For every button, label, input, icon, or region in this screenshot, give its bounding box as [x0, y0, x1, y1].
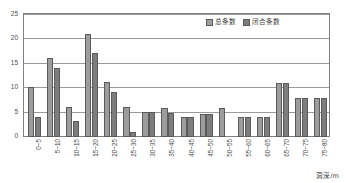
bar-group — [120, 15, 139, 137]
bar-group — [101, 15, 120, 137]
bar — [142, 112, 148, 137]
x-axis-tick: 35~40 — [169, 139, 175, 157]
bar — [149, 112, 155, 137]
plot-area — [23, 13, 330, 137]
bar — [245, 117, 251, 137]
bar — [206, 114, 212, 137]
x-axis-tick: 10~15 — [74, 139, 80, 157]
bar — [73, 121, 79, 137]
y-axis-tick: 20 — [11, 35, 18, 42]
y-axis-tick: 25 — [11, 11, 18, 18]
bar-group — [254, 15, 273, 137]
y-axis-tick: 5 — [14, 108, 18, 115]
bar-group — [178, 15, 197, 137]
y-axis-tick: 0 — [14, 133, 18, 140]
bar — [283, 83, 289, 137]
x-axis-tick: 45~50 — [208, 139, 214, 157]
legend-item[interactable]: 总条数 — [206, 19, 236, 26]
bar-group — [292, 15, 311, 137]
bar — [200, 114, 206, 137]
bar — [111, 92, 117, 137]
x-axis-tick: 50~55 — [227, 139, 233, 157]
bar — [238, 117, 244, 137]
bar — [104, 82, 110, 137]
bar — [219, 108, 225, 137]
bar — [321, 98, 327, 137]
x-axis-tick: 40~45 — [189, 139, 195, 157]
y-axis-tick: 15 — [11, 60, 18, 67]
bar-group — [139, 15, 158, 137]
bar-group — [311, 15, 330, 137]
bar — [314, 98, 320, 137]
bar-group — [44, 15, 63, 137]
bar-group — [216, 15, 235, 137]
bar-group — [25, 15, 44, 137]
x-axis-tick: 65~70 — [284, 139, 290, 157]
bar — [92, 53, 98, 137]
bar — [54, 68, 60, 137]
bar — [66, 107, 72, 137]
bar-series-container — [25, 15, 330, 137]
x-axis-tick: 70~75 — [303, 139, 309, 157]
x-axis-tick: 15~20 — [93, 139, 99, 157]
x-axis-tick: 75~80 — [322, 139, 328, 157]
bar-group — [197, 15, 216, 137]
bar — [187, 117, 193, 137]
bar — [161, 108, 167, 137]
bar — [181, 117, 187, 137]
bar-group — [63, 15, 82, 137]
x-axis-tick: 20~25 — [112, 139, 118, 157]
bar — [302, 98, 308, 137]
bar — [47, 58, 53, 137]
chart-legend: 总条数闭合条数 — [203, 15, 283, 29]
bar-group — [158, 15, 177, 137]
x-axis: 0~55~1010~1515~2020~2525~3030~3535~4040~… — [24, 138, 329, 172]
x-axis-title: 洞深/m — [316, 170, 339, 180]
y-axis: 0510152025 — [0, 13, 22, 137]
bar — [35, 117, 41, 137]
legend-label: 总条数 — [215, 19, 236, 26]
bar — [123, 107, 129, 137]
bar — [295, 98, 301, 137]
x-axis-tick: 55~60 — [246, 139, 252, 157]
x-axis-tick: 60~65 — [265, 139, 271, 157]
x-axis-tick: 0~5 — [36, 139, 42, 150]
x-axis-tick: 25~30 — [131, 139, 137, 157]
bar — [168, 113, 174, 137]
bar-group — [273, 15, 292, 137]
legend-item[interactable]: 闭合条数 — [243, 19, 280, 26]
x-axis-tick: 5~10 — [55, 139, 61, 153]
bar — [85, 34, 91, 137]
bar-chart: 0510152025 0~55~1010~1515~2020~2525~3030… — [0, 0, 347, 183]
bar-group — [82, 15, 101, 137]
y-axis-tick: 10 — [11, 84, 18, 91]
bar — [28, 87, 34, 137]
bar — [257, 117, 263, 137]
legend-label: 闭合条数 — [252, 19, 280, 26]
x-axis-tick: 30~35 — [150, 139, 156, 157]
bar — [276, 83, 282, 137]
legend-swatch-icon — [206, 19, 213, 26]
bar — [264, 117, 270, 137]
bar-group — [235, 15, 254, 137]
legend-swatch-icon — [243, 19, 250, 26]
bar — [130, 132, 136, 137]
